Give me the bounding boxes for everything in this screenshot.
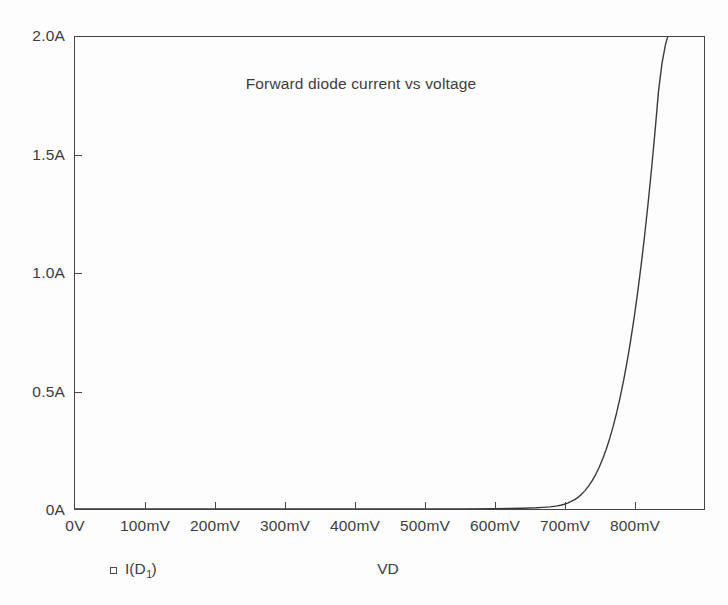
legend[interactable]: I(D1) <box>110 560 157 578</box>
series-line-ID1 <box>75 37 668 509</box>
y-tick-text: 1.0A <box>32 264 74 282</box>
legend-label-prefix: I(D <box>125 560 146 577</box>
legend-label-ID1: I(D1) <box>125 560 157 578</box>
y-tick-text: 0.5A <box>32 383 74 401</box>
y-tick-label-1.0A: 1.0A <box>0 264 74 282</box>
x-tick-label-700mV: 700mV <box>540 517 590 535</box>
y-tick-label-0.5A: 0.5A <box>0 383 74 401</box>
y-tick-label-2.0A: 2.0A <box>0 27 74 45</box>
y-tick-text: 1.5A <box>32 146 74 164</box>
x-tick-label-400mV: 400mV <box>330 517 380 535</box>
diode-iv-chart: Forward diode current vs voltage 2.0A 1.… <box>0 0 728 605</box>
plot-area <box>74 36 705 510</box>
x-tick-label-200mV: 200mV <box>190 517 240 535</box>
y-tick-text: 2.0A <box>32 27 74 45</box>
x-tick-label-800mV: 800mV <box>610 517 660 535</box>
y-tick-label-0A: 0A <box>0 501 74 519</box>
legend-marker-square-icon <box>110 567 117 574</box>
legend-label-suffix: ) <box>152 560 157 577</box>
legend-label-subscript: 1 <box>146 568 152 580</box>
x-tick-label-600mV: 600mV <box>470 517 520 535</box>
x-axis-label: VD <box>377 560 399 578</box>
x-tick-label-500mV: 500mV <box>400 517 450 535</box>
x-tick-label-300mV: 300mV <box>260 517 310 535</box>
x-tick-label-0V: 0V <box>65 517 84 535</box>
plot-canvas <box>75 37 704 509</box>
x-tick-label-100mV: 100mV <box>120 517 170 535</box>
y-tick-label-1.5A: 1.5A <box>0 146 74 164</box>
